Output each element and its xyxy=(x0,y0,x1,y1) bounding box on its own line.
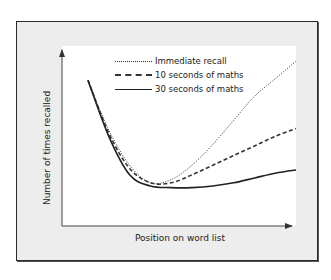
dashed-line-icon xyxy=(115,74,152,76)
legend-label: 30 seconds of maths xyxy=(155,84,244,94)
legend-item-immediate-recall: Immediate recall xyxy=(115,54,244,68)
legend-item-30-seconds: 30 seconds of maths xyxy=(115,82,244,96)
x-axis-label: Position on word list xyxy=(135,233,225,243)
legend-label: Immediate recall xyxy=(155,56,227,66)
series-30-seconds-of-maths xyxy=(88,80,296,187)
legend: Immediate recall 10 seconds of maths 30 … xyxy=(115,54,244,96)
legend-label: 10 seconds of maths xyxy=(155,70,244,80)
legend-item-10-seconds: 10 seconds of maths xyxy=(115,68,244,82)
dotted-line-icon xyxy=(115,61,152,62)
y-axis-label: Number of times recalled xyxy=(42,91,52,205)
solid-line-icon xyxy=(115,89,152,90)
